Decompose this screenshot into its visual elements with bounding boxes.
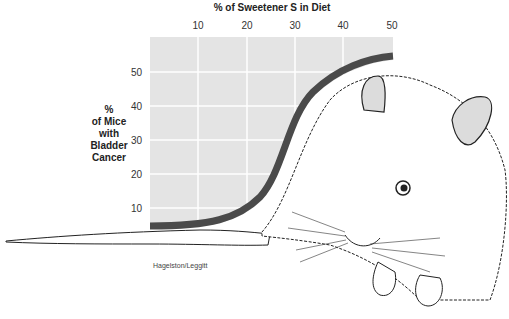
mouse-tail	[6, 230, 270, 245]
plot-area	[0, 0, 509, 319]
mouse-right-paw	[416, 275, 443, 306]
illustration-credit: Hagelston/Leggitt	[153, 262, 207, 269]
mouse-pupil	[401, 185, 408, 192]
